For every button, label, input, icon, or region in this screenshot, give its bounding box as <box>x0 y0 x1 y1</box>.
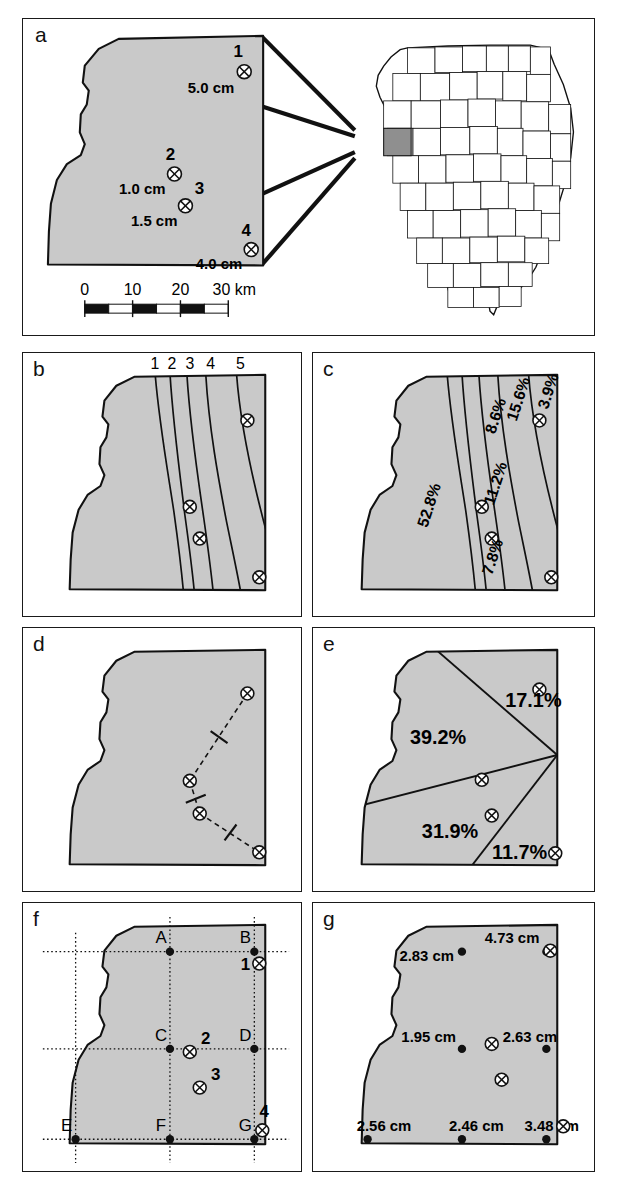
grid-value-B: 4.73 cm <box>485 930 540 946</box>
panel-c: c 52.8% <box>312 352 595 617</box>
study-area-outline-c <box>362 375 558 590</box>
gauge-f-number-1: 1 <box>241 955 250 974</box>
grid-node-F <box>166 1135 174 1143</box>
panel-e-graphic: 17.1% 39.2% 31.9% 11.7% <box>313 628 594 891</box>
panel-b-graphic: 1 2 3 4 5 <box>23 353 301 616</box>
gauge-1-value: 5.0 cm <box>188 79 234 96</box>
isohyet-label-3: 3 <box>185 355 194 372</box>
scale-bar: 0 10 20 30 km <box>80 281 256 317</box>
grid-node-G <box>250 1135 258 1143</box>
county-grid <box>384 46 571 307</box>
study-area-outline-b <box>70 375 266 590</box>
isohyet-label-4: 4 <box>206 355 215 372</box>
grid-node-D <box>250 1045 258 1053</box>
grid-node-C <box>166 1045 174 1053</box>
figure-root: a 1 5.0 cm <box>0 0 617 1191</box>
gauge-f-number-3: 3 <box>211 1065 220 1084</box>
panel-a: a 1 5.0 cm <box>22 18 595 336</box>
leader-line-upper <box>262 106 355 136</box>
grid-label-A: A <box>155 928 167 947</box>
panel-d-graphic <box>23 628 301 891</box>
scale-tick-30: 30 km <box>213 281 256 298</box>
panel-g: g 2.83 cm 4.73 cm 1.95 cm 2.63 cm 2.56 c… <box>312 902 595 1172</box>
gauge-marker-f-2 <box>183 1045 196 1058</box>
gauge-marker-c-4 <box>545 571 558 584</box>
grid-value-F: 2.46 cm <box>449 1118 504 1134</box>
gauge-marker-c-1 <box>533 414 546 427</box>
gauge-marker-g-4 <box>557 1120 570 1133</box>
panel-f: f <box>22 902 302 1172</box>
thiessen-pct-1: 17.1% <box>505 689 562 711</box>
gauge-marker-g-1 <box>544 944 557 957</box>
panel-g-graphic: 2.83 cm 4.73 cm 1.95 cm 2.63 cm 2.56 cm … <box>313 903 594 1171</box>
grid-node-B <box>250 947 258 955</box>
gauge-marker-3 <box>178 199 192 213</box>
gauge-3-number: 3 <box>195 179 204 198</box>
gauge-marker-f-3 <box>193 1081 206 1094</box>
grid-label-E: E <box>61 1116 72 1135</box>
gauge-marker-e-4 <box>549 847 562 860</box>
gauge-3-value: 1.5 cm <box>131 212 177 229</box>
thiessen-pct-4: 11.7% <box>492 841 548 863</box>
grid-label-D: D <box>239 1026 251 1045</box>
gauge-marker-4 <box>244 243 258 257</box>
grid-node-g-F <box>458 1135 466 1143</box>
scale-tick-10: 10 <box>124 281 142 298</box>
gauge-marker-g-2 <box>485 1037 498 1050</box>
gauge-marker-d-4 <box>253 846 266 859</box>
panel-f-graphic: A B C D E F G 1 2 3 4 <box>23 903 301 1171</box>
grid-node-g-A <box>458 947 466 955</box>
grid-value-E: 2.56 cm <box>357 1118 412 1134</box>
grid-label-B: B <box>240 928 251 947</box>
gauge-marker-b-1 <box>241 414 254 427</box>
gauge-marker-e-2 <box>475 773 488 786</box>
isohyet-label-2: 2 <box>168 355 177 372</box>
scale-tick-20: 20 <box>172 281 190 298</box>
gauge-marker-2 <box>167 167 181 181</box>
gauge-2-number: 2 <box>166 145 175 164</box>
gauge-2-value: 1.0 cm <box>119 180 165 197</box>
gauge-4-number: 4 <box>242 221 252 240</box>
gauge-marker-d-2 <box>183 774 196 787</box>
gauge-marker-f-1 <box>253 957 266 970</box>
grid-node-E <box>71 1135 79 1143</box>
isohyet-label-5: 5 <box>236 355 245 372</box>
gauge-marker-f-4 <box>256 1124 269 1137</box>
gauge-f-number-2: 2 <box>201 1029 210 1048</box>
grid-label-G: G <box>239 1116 252 1135</box>
gauge-4-value: 4.0 cm <box>196 255 242 272</box>
study-area-outline-f <box>70 925 266 1144</box>
gauge-marker-b-3 <box>193 532 206 545</box>
grid-node-g-G <box>542 1135 550 1143</box>
gauge-1-number: 1 <box>234 42 243 61</box>
thiessen-pct-2: 39.2% <box>410 726 467 748</box>
grid-value-C: 1.95 cm <box>401 1029 456 1045</box>
panel-c-graphic: 52.8% 11.2% 8.6% 15.6% 3.9% 7.8% <box>313 353 594 616</box>
gauge-marker-g-3 <box>495 1073 508 1086</box>
grid-value-A: 2.83 cm <box>399 948 454 964</box>
grid-value-D: 2.63 cm <box>503 1029 558 1045</box>
gauge-marker-b-2 <box>183 500 196 513</box>
gauge-marker-b-4 <box>253 571 266 584</box>
panel-a-graphic: 1 5.0 cm 2 1.0 cm 3 1.5 cm <box>23 19 594 335</box>
grid-node-g-E <box>363 1135 371 1143</box>
grid-value-G: 3.48 cm <box>525 1118 580 1134</box>
gauge-marker-1 <box>237 65 251 79</box>
study-area-outline <box>48 36 263 266</box>
gauge-marker-e-3 <box>485 809 498 822</box>
gauge-f-number-4: 4 <box>260 1102 270 1121</box>
panel-d: d <box>22 627 302 892</box>
thiessen-pct-3: 31.9% <box>422 820 479 842</box>
panel-e: e 17.1% 39.2% <box>312 627 595 892</box>
scale-tick-0: 0 <box>80 281 89 298</box>
grid-node-A <box>166 947 174 955</box>
illinois-inset-map <box>376 45 573 315</box>
gauge-marker-d-1 <box>241 687 254 700</box>
grid-node-g-D <box>542 1045 550 1053</box>
grid-label-C: C <box>155 1026 167 1045</box>
leader-line-top <box>262 37 355 130</box>
isohyet-label-1: 1 <box>151 355 160 372</box>
study-area-outline-d <box>70 650 266 865</box>
grid-node-g-C <box>458 1045 466 1053</box>
panel-b: b 1 <box>22 352 302 617</box>
